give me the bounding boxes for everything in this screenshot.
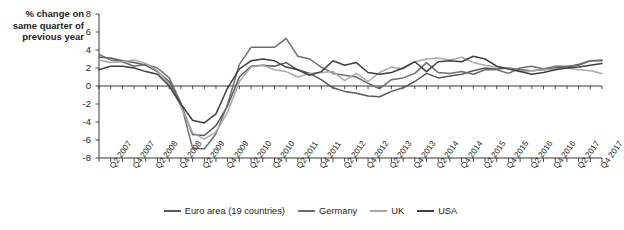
legend-color-swatch	[370, 210, 387, 212]
legend-label: USA	[438, 206, 457, 216]
chart-legend: Euro area (19 countries)GermanyUKUSA	[0, 206, 621, 216]
y-axis-tick-label: 6	[69, 27, 91, 37]
y-axis-tick-label: -6	[69, 135, 91, 145]
y-axis-tick-label: 8	[69, 9, 91, 19]
y-axis-tick-label: -4	[69, 117, 91, 127]
legend-color-swatch	[417, 210, 434, 212]
legend-color-swatch	[298, 210, 315, 212]
legend-label: Euro area (19 countries)	[185, 206, 285, 216]
legend-item[interactable]: Euro area (19 countries)	[164, 206, 285, 216]
legend-label: Germany	[319, 206, 357, 216]
y-axis-tick-label: 4	[69, 45, 91, 55]
y-axis-tick-label: 2	[69, 63, 91, 73]
series-line-0	[99, 57, 602, 135]
y-axis-tick-label: -8	[69, 153, 91, 163]
legend-item[interactable]: Germany	[298, 206, 357, 216]
legend-item[interactable]: UK	[370, 206, 404, 216]
legend-color-swatch	[164, 210, 181, 212]
legend-label: UK	[391, 206, 404, 216]
y-axis-tick-label: 0	[69, 81, 91, 91]
y-axis-tick-label: -2	[69, 99, 91, 109]
legend-item[interactable]: USA	[417, 206, 457, 216]
series-line-2	[99, 57, 602, 139]
